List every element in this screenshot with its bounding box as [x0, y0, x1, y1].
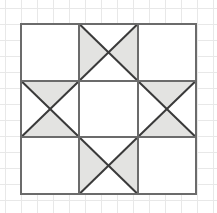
- cell-base-bottom-left: [21, 137, 79, 194]
- cell-base-top-left: [21, 24, 79, 81]
- cell-fills: [21, 24, 196, 194]
- figure-canvas: [0, 0, 217, 213]
- cell-base-top-right: [138, 24, 196, 81]
- quilt-block-diagram: [0, 0, 217, 213]
- cell-base-bottom-right: [138, 137, 196, 194]
- cell-base-center: [79, 81, 137, 138]
